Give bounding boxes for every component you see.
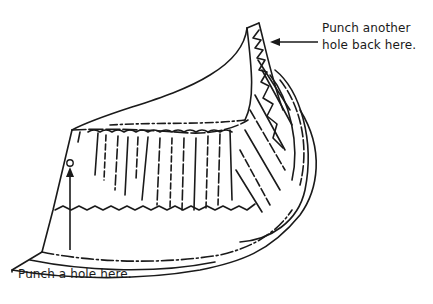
arrow-left-icon <box>270 38 318 46</box>
callout-front-hole: Punch a hole here. <box>18 266 132 283</box>
callout-back-hole: Punch another hole back here. <box>322 20 416 54</box>
circle-hole-icon <box>67 160 73 166</box>
diagram-canvas: Punch another hole back here. Punch a ho… <box>0 0 433 304</box>
callout-back-hole-line1: Punch another <box>322 20 416 37</box>
callout-back-hole-line2: hole back here. <box>322 37 416 54</box>
